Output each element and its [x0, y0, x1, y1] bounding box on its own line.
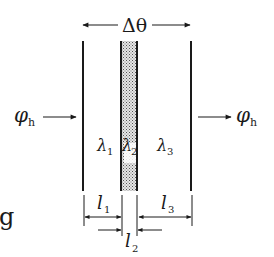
flux-in-subscript: h [28, 116, 35, 129]
l1-label: l [97, 192, 103, 213]
lambda-1-subscript: 1 [107, 146, 113, 157]
flux-out-label: φ [236, 103, 250, 127]
flux-out-subscript: h [250, 116, 257, 129]
flux-in-label: φ [14, 103, 28, 127]
l1-subscript: 1 [104, 204, 110, 215]
heat-flux-in: φ h [14, 103, 76, 129]
delta-theta-dimension: Δθ [83, 14, 190, 36]
l2-subscript: 2 [132, 243, 138, 254]
l2-label: l [125, 230, 131, 251]
middle-layer-shading [121, 41, 137, 191]
edge-text-fragment: g [0, 203, 14, 231]
heat-conduction-diagram: Δθ φ h φ h λ 1 λ 2 λ 3 [0, 0, 274, 257]
thickness-l3-dimension: l 3 [139, 192, 191, 217]
l3-label: l [161, 192, 167, 213]
delta-theta-label: Δθ [122, 14, 147, 36]
thickness-l1-dimension: l 1 [85, 192, 121, 217]
lambda-2-subscript: 2 [131, 146, 137, 157]
lambda-1-label: λ [96, 136, 107, 155]
lambda-3-subscript: 3 [167, 146, 173, 157]
heat-flux-out: φ h [198, 103, 257, 129]
l3-subscript: 3 [168, 204, 174, 215]
lambda-3-label: λ [156, 136, 167, 155]
thickness-l2-dimension: l 2 [98, 230, 162, 254]
